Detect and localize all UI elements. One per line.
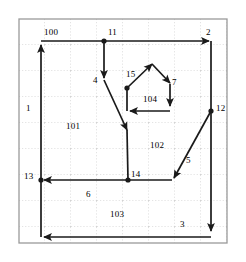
node-label-12: 12 <box>216 104 225 113</box>
diagram-svg <box>0 0 246 262</box>
node-label-15: 15 <box>126 70 135 79</box>
node-dot-13 <box>38 177 43 182</box>
edge-label-100: 100 <box>44 28 58 37</box>
node-label-2: 2 <box>206 28 211 37</box>
diagram-canvas: 11 2 12 13 14 15 1 100 3 4 5 6 7 101 102… <box>0 0 246 262</box>
node-label-11: 11 <box>108 28 117 37</box>
node-dot-15 <box>124 85 129 90</box>
edge-label-6: 6 <box>86 190 91 199</box>
node-label-14: 14 <box>131 170 140 179</box>
edge-label-5: 5 <box>186 156 191 165</box>
region-label-101: 101 <box>66 122 80 131</box>
region-label-102: 102 <box>150 141 164 150</box>
node-dot-14 <box>125 177 130 182</box>
edge-label-3: 3 <box>180 220 185 229</box>
node-label-13: 13 <box>24 172 33 181</box>
edge-label-7: 7 <box>172 78 177 87</box>
region-label-103: 103 <box>110 210 124 219</box>
region-label-104: 104 <box>143 95 157 104</box>
node-dot-12 <box>208 108 213 113</box>
node-dot-11 <box>101 38 106 43</box>
edge-label-1: 1 <box>26 104 31 113</box>
edge-4-segment-to-node-14 <box>127 130 128 180</box>
edge-label-4: 4 <box>93 76 98 85</box>
